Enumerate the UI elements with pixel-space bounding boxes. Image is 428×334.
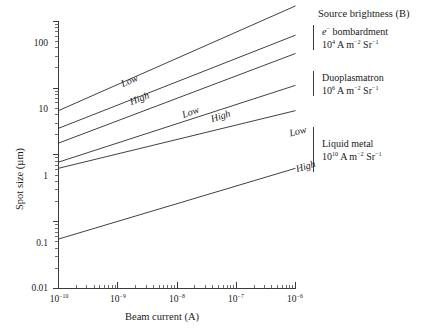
legend-value-unit-b: Sr <box>361 85 372 96</box>
legend-value-unit-a-exponent: −2 <box>354 84 361 91</box>
series-line-liquid-metal-low <box>59 111 296 169</box>
legend-value-base: 10 <box>322 39 332 50</box>
y-tick-label-10: 10 <box>8 104 48 114</box>
legend-entry-value-liquid-metal: 1010 A m−2 Sr−1 <box>322 151 382 162</box>
x-tick-base: 10 <box>169 294 179 304</box>
figure-root: 100 10 1 0.1 0.01 Spot size (µm) 10−10 1… <box>0 0 428 334</box>
legend-value-base: 10 <box>322 151 332 162</box>
series-group <box>59 6 296 239</box>
y-tick-label-0-1: 0.1 <box>8 238 48 248</box>
x-tick-exponent: −7 <box>238 293 244 299</box>
legend-value-base: 10 <box>322 85 332 96</box>
legend-entry-text: Liquid metal <box>322 138 373 149</box>
x-tick-exponent: −9 <box>120 293 126 299</box>
legend-value-unit-b-exponent: −1 <box>375 150 382 157</box>
chart-canvas <box>0 0 428 334</box>
x-tick-base: 10 <box>287 294 297 304</box>
x-tick-label-1e-6: 10−6 <box>274 294 316 304</box>
legend-value-unit-a: A m <box>335 39 354 50</box>
y-axis-ticks <box>53 21 59 288</box>
legend-value-unit-a-exponent: −2 <box>354 38 361 45</box>
y-tick-label-100: 100 <box>8 38 48 48</box>
y-axis-title: Spot size (µm) <box>14 148 25 210</box>
legend-heading: Source brightness (B) <box>318 8 410 19</box>
x-tick-exponent: −10 <box>59 293 68 299</box>
legend-entry-text: Duoplasmatron <box>322 72 384 83</box>
x-tick-base: 10 <box>50 294 60 304</box>
series-line-liquid-metal-high <box>59 168 296 239</box>
x-tick-label-1e-8: 10−8 <box>156 294 198 304</box>
legend-value-unit-a-exponent: −2 <box>357 150 364 157</box>
y-tick-label-0-01: 0.01 <box>8 283 48 293</box>
legend-entry-value-duoplasmatron: 106 A m−2 Sr−1 <box>322 85 379 96</box>
x-axis-ticks <box>59 282 296 289</box>
legend-entry-name-duoplasmatron: Duoplasmatron <box>322 72 384 83</box>
legend-value-unit-a: A m <box>338 151 357 162</box>
x-tick-label-1e-10: 10−10 <box>38 294 80 304</box>
axes-group <box>59 22 297 289</box>
series-line-duoplasmatron-low <box>59 53 296 143</box>
legend-value-unit-b: Sr <box>361 39 372 50</box>
x-axis-title: Beam current (A) <box>125 311 199 322</box>
x-tick-exponent: −8 <box>179 293 185 299</box>
legend-value-unit-b-exponent: −1 <box>372 38 379 45</box>
x-tick-label-1e-9: 10−9 <box>97 294 139 304</box>
x-tick-label-1e-7: 10−7 <box>215 294 257 304</box>
legend-value-unit-b-exponent: −1 <box>372 84 379 91</box>
x-tick-base: 10 <box>110 294 120 304</box>
x-tick-exponent: −6 <box>297 293 303 299</box>
series-line-e-bombardment-low <box>59 6 296 111</box>
legend-entry-value-e-bombardment: 104 A m−2 Sr−1 <box>322 39 379 50</box>
x-tick-base: 10 <box>228 294 238 304</box>
legend-value-unit-b: Sr <box>364 151 375 162</box>
legend-value-unit-a: A m <box>335 85 354 96</box>
legend-entry-name-e-bombardment: e− bombardment <box>322 26 388 37</box>
legend-entry-text: bombardment <box>330 26 388 37</box>
legend-entry-name-liquid-metal: Liquid metal <box>322 138 373 149</box>
series-line-e-bombardment-high <box>59 35 296 128</box>
series-line-duoplasmatron-high <box>59 85 296 162</box>
